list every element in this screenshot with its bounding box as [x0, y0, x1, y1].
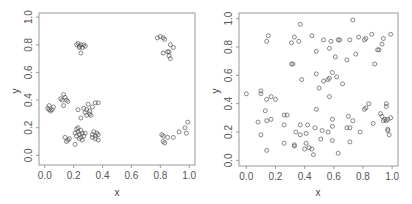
data-point	[373, 62, 377, 66]
y-tick-label: 0.4	[223, 96, 234, 110]
data-point	[326, 130, 330, 134]
data-point	[358, 130, 362, 134]
random-scatter-panel: 0.00.20.40.60.81.0 0.00.20.40.60.81.0 x …	[206, 0, 412, 204]
data-point	[336, 151, 340, 155]
y-tick-label: 1.0	[223, 11, 234, 25]
data-point	[313, 126, 317, 130]
data-point	[171, 135, 175, 139]
y-axis-label: y	[10, 89, 21, 94]
data-point	[300, 78, 304, 82]
data-point	[265, 97, 269, 101]
y-axis-ticks: 0.00.20.40.60.81.0	[223, 11, 239, 167]
data-point	[327, 46, 331, 50]
y-tick-label: 1.0	[23, 10, 34, 24]
data-point	[269, 95, 273, 99]
data-point	[387, 133, 391, 137]
data-point	[351, 119, 355, 123]
data-point	[183, 126, 187, 130]
data-point	[389, 32, 393, 36]
data-point	[370, 32, 374, 36]
data-point	[259, 92, 263, 96]
data-point	[263, 109, 267, 113]
data-point	[265, 119, 269, 123]
data-point	[62, 104, 66, 108]
data-point	[345, 58, 349, 62]
random-scatter-plot: 0.00.20.40.60.81.0 0.00.20.40.60.81.0 x …	[206, 0, 412, 204]
x-tick-label: 0.8	[356, 171, 370, 182]
data-point	[314, 49, 318, 53]
y-tick-label: 0.6	[223, 68, 234, 82]
x-tick-label: 0.6	[327, 171, 341, 182]
y-tick-label: 0.4	[23, 93, 34, 107]
data-point	[294, 130, 298, 134]
data-point	[184, 131, 188, 135]
data-point	[314, 72, 318, 76]
y-tick-label: 0.8	[23, 37, 34, 51]
data-point	[274, 97, 278, 101]
data-point	[282, 141, 286, 145]
clustered-scatter-panel: 0.00.20.40.60.81.0 0.00.20.40.60.81.0 x …	[0, 0, 206, 204]
y-axis-label: y	[210, 89, 221, 94]
x-tick-label: 0.4	[298, 171, 312, 182]
data-point	[357, 35, 361, 39]
data-point	[346, 114, 350, 118]
data-point	[330, 139, 334, 143]
data-point	[322, 38, 326, 42]
data-point	[341, 82, 345, 86]
data-point	[292, 35, 296, 39]
data-point	[303, 147, 307, 151]
data-point	[297, 39, 301, 43]
data-point	[285, 113, 289, 117]
data-point	[186, 120, 190, 124]
x-axis-label: x	[115, 187, 120, 198]
clustered-scatter-plot: 0.00.20.40.60.81.0 0.00.20.40.60.81.0 x …	[0, 0, 206, 204]
y-tick-label: 0.6	[23, 65, 34, 79]
data-points	[244, 18, 392, 157]
data-point	[265, 39, 269, 43]
data-point	[333, 55, 337, 59]
data-point	[348, 126, 352, 130]
data-point	[351, 18, 355, 22]
data-point	[330, 117, 334, 121]
y-tick-label: 0.8	[223, 40, 234, 54]
x-axis-ticks: 0.00.20.40.60.81.0	[38, 165, 197, 181]
data-point	[177, 130, 181, 134]
y-tick-label: 0.0	[23, 148, 34, 162]
data-point	[266, 34, 270, 38]
data-point	[320, 129, 324, 133]
data-point	[79, 51, 83, 55]
data-point	[96, 101, 100, 105]
y-tick-label: 0.2	[223, 125, 234, 139]
data-point	[298, 133, 302, 137]
data-point	[90, 105, 94, 109]
data-point	[381, 37, 385, 41]
data-point	[290, 41, 294, 45]
data-point	[348, 38, 352, 42]
data-point	[335, 75, 339, 79]
x-tick-label: 0.0	[239, 171, 253, 182]
plot-frame	[239, 13, 398, 166]
x-axis-label: x	[316, 187, 321, 198]
x-tick-label: 0.8	[153, 170, 167, 181]
y-axis-ticks: 0.00.20.40.60.81.0	[23, 10, 39, 163]
data-point	[256, 120, 260, 124]
x-axis-ticks: 0.00.20.40.60.81.0	[239, 166, 399, 182]
data-point	[76, 108, 80, 112]
data-point	[384, 102, 388, 106]
data-point	[319, 137, 323, 141]
data-point	[259, 133, 263, 137]
data-point	[171, 46, 175, 50]
data-points	[46, 35, 190, 147]
data-point	[282, 123, 286, 127]
data-point	[244, 92, 248, 96]
data-point	[322, 79, 326, 83]
data-point	[166, 135, 170, 139]
x-tick-label: 0.2	[67, 170, 81, 181]
plot-frame	[39, 13, 195, 165]
y-tick-label: 0.2	[23, 120, 34, 134]
data-point	[79, 116, 83, 120]
x-tick-label: 0.2	[269, 171, 283, 182]
data-point	[310, 34, 314, 38]
data-point	[330, 124, 334, 128]
data-point	[304, 141, 308, 145]
